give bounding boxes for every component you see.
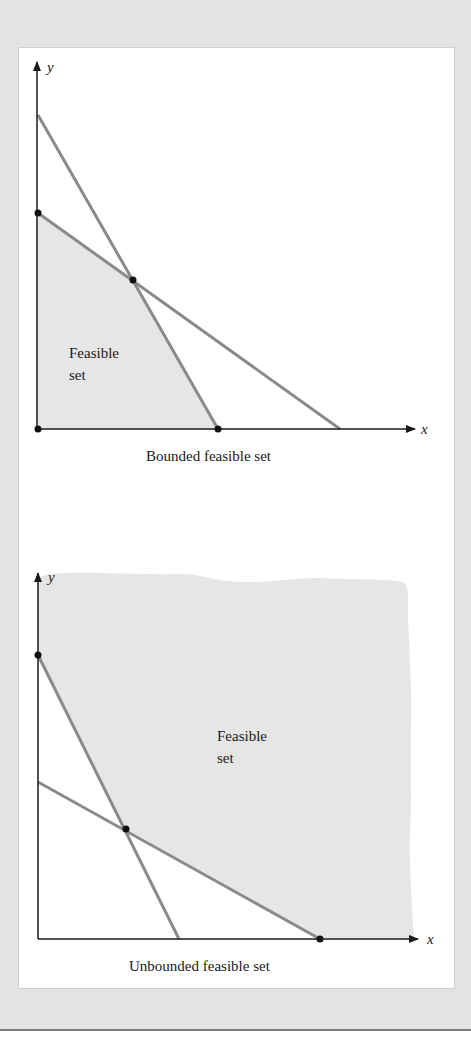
feasible-set-label-line2: set bbox=[69, 367, 86, 383]
bounded-caption: Bounded feasible set bbox=[146, 448, 272, 464]
y-axis-label: y bbox=[46, 569, 55, 585]
unbounded-caption: Unbounded feasible set bbox=[129, 958, 271, 974]
x-axis-label: x bbox=[420, 421, 428, 437]
vertex-intersection-dot bbox=[123, 826, 130, 833]
feasible-set-label-line1: Feasible bbox=[69, 345, 119, 361]
x-axis-label: x bbox=[426, 931, 434, 947]
bounded-feasible-set-figure: y x Feasible set Bounded feasible set bbox=[35, 59, 429, 464]
vertex-y-intercept-dot bbox=[35, 652, 42, 659]
vertex-y-intercept-dot bbox=[35, 210, 42, 217]
y-axis-label: y bbox=[45, 59, 54, 75]
vertex-x-intercept-dot bbox=[317, 936, 324, 943]
feasible-set-label-line2: set bbox=[217, 750, 234, 766]
vertex-x-intercept-dot bbox=[215, 426, 222, 433]
unbounded-feasible-set-figure: y x Feasible set Unbounded feasible set bbox=[35, 569, 435, 974]
figures-svg: y x Feasible set Bounded feasible set y … bbox=[0, 0, 471, 1058]
vertex-origin-dot bbox=[35, 426, 42, 433]
feasible-set-label-line1: Feasible bbox=[217, 728, 267, 744]
vertex-intersection-dot bbox=[130, 277, 137, 284]
